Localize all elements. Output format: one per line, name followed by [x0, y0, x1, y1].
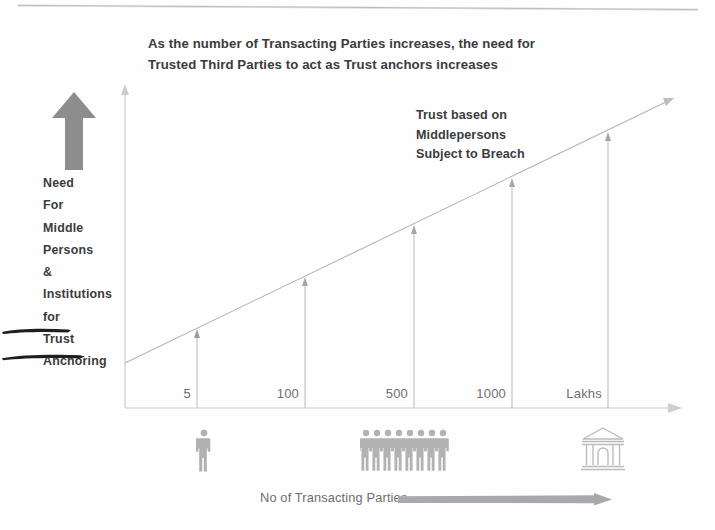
riser-arrow-500: [411, 225, 417, 234]
trend-line: [125, 101, 668, 363]
riser-arrow-lakhs: [605, 132, 611, 141]
x-tick-label-100: 100: [245, 386, 299, 401]
riser-arrow-5: [194, 329, 200, 338]
x-tick-label-lakhs: Lakhs: [540, 386, 602, 401]
x-axis-caption: No of Transacting Parties: [260, 490, 407, 505]
figure-canvas: As the number of Transacting Parties inc…: [0, 0, 715, 530]
riser-arrow-1000: [509, 178, 515, 187]
trend-up-arrow-icon: [663, 98, 674, 106]
people-group-icon: [360, 428, 452, 472]
x-tick-label-500: 500: [354, 386, 408, 401]
x-tick-label-1000: 1000: [448, 386, 506, 401]
axis-right-arrow-icon: [668, 403, 682, 413]
axis-up-arrow-icon: [121, 84, 129, 95]
right-arrow-icon: [398, 493, 614, 507]
riser-arrow-100: [302, 277, 308, 286]
riser-group: [194, 132, 611, 408]
person-icon: [196, 428, 212, 472]
x-tick-label-5: 5: [137, 386, 191, 401]
bank-building-icon: [580, 425, 626, 473]
